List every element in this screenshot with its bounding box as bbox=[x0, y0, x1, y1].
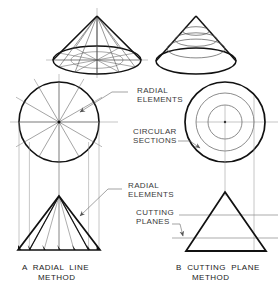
cone-sections-outline-right bbox=[196, 16, 236, 61]
leader-radial-elements-top bbox=[80, 92, 128, 112]
label-cutting-planes: CUTTING PLANES bbox=[136, 208, 174, 227]
cone-sections-outline-left bbox=[156, 16, 196, 61]
cone-outline-right bbox=[97, 16, 141, 60]
drawing-canvas bbox=[0, 0, 278, 292]
cutting-plane-lines bbox=[172, 215, 278, 238]
cone-pictorial-sections bbox=[156, 16, 236, 74]
label-radial-elements-top: RADIAL ELEMENTS bbox=[137, 86, 183, 105]
caption-b-line2: METHOD bbox=[192, 273, 229, 283]
leader-circular-sections bbox=[178, 141, 200, 148]
caption-b-line1: B CUTTING PLANE bbox=[176, 263, 260, 273]
label-radial-elements-bottom: RADIAL ELEMENTS bbox=[128, 181, 174, 200]
top-view-center-point bbox=[58, 121, 61, 124]
top-view-radial-circle bbox=[10, 74, 128, 196]
technical-drawing-figure: RADIAL ELEMENTS CIRCULAR SECTIONS RADIAL… bbox=[0, 0, 278, 292]
leader-radial-elements-bottom bbox=[80, 189, 122, 216]
caption-a-line1: A RADIAL LINE bbox=[22, 263, 89, 273]
caption-a-line2: METHOD bbox=[38, 273, 75, 283]
front-view-cutting-plane-triangle bbox=[172, 192, 278, 251]
cone-circular-sections bbox=[167, 27, 225, 58]
cone-sections-base-ellipse bbox=[156, 48, 236, 74]
front-view-radial-triangle bbox=[18, 189, 122, 250]
label-circular-sections: CIRCULAR SECTIONS bbox=[133, 127, 177, 146]
top-view-circular-sections bbox=[178, 82, 278, 162]
cone-pictorial-radial bbox=[46, 8, 148, 78]
cone-outline-left bbox=[53, 16, 97, 60]
